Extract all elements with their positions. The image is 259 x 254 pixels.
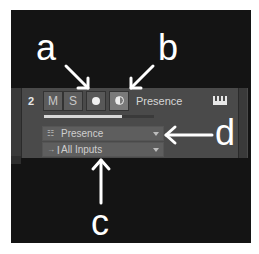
- arrow-b-icon: [131, 66, 153, 88]
- arrow-a-icon: [66, 66, 88, 88]
- callout-arrows: [0, 0, 259, 254]
